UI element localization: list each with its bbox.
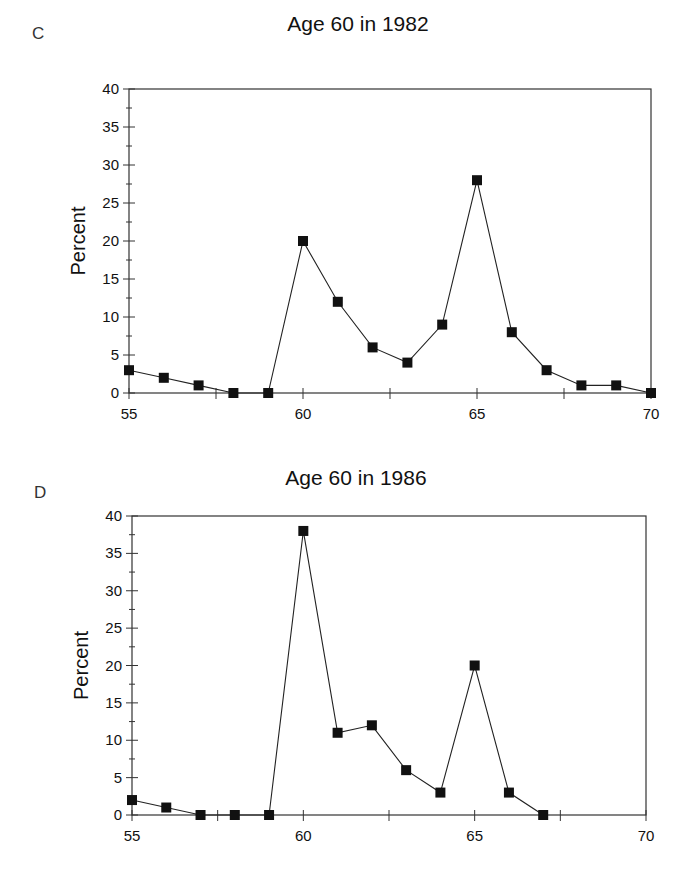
- x-tick-label: 60: [295, 827, 312, 844]
- x-tick-label: 55: [124, 827, 141, 844]
- y-tick-label: 30: [105, 582, 122, 599]
- y-tick-label: 25: [105, 619, 122, 636]
- data-point-marker: [470, 661, 480, 671]
- data-point-marker: [538, 810, 548, 820]
- y-tick-label: 5: [114, 769, 122, 786]
- y-tick-label: 20: [105, 657, 122, 674]
- line-chart-1986: 051015202530354055606570Percent: [0, 0, 683, 883]
- x-tick-label: 65: [466, 827, 483, 844]
- y-tick-label: 10: [105, 731, 122, 748]
- data-point-marker: [367, 720, 377, 730]
- y-tick-label: 35: [105, 544, 122, 561]
- y-tick-label: 40: [105, 507, 122, 524]
- data-point-marker: [196, 810, 206, 820]
- y-axis-label: Percent: [70, 631, 92, 700]
- y-tick-label: 15: [105, 694, 122, 711]
- data-point-marker: [333, 728, 343, 738]
- data-point-marker: [264, 810, 274, 820]
- x-tick-label: 70: [638, 827, 655, 844]
- data-point-marker: [401, 765, 411, 775]
- data-point-marker: [161, 803, 171, 813]
- data-point-marker: [230, 810, 240, 820]
- data-point-marker: [127, 795, 137, 805]
- plot-frame: [132, 516, 646, 815]
- y-tick-label: 0: [114, 806, 122, 823]
- series-line: [132, 531, 543, 815]
- data-point-marker: [435, 788, 445, 798]
- data-point-marker: [504, 788, 514, 798]
- data-point-marker: [298, 526, 308, 536]
